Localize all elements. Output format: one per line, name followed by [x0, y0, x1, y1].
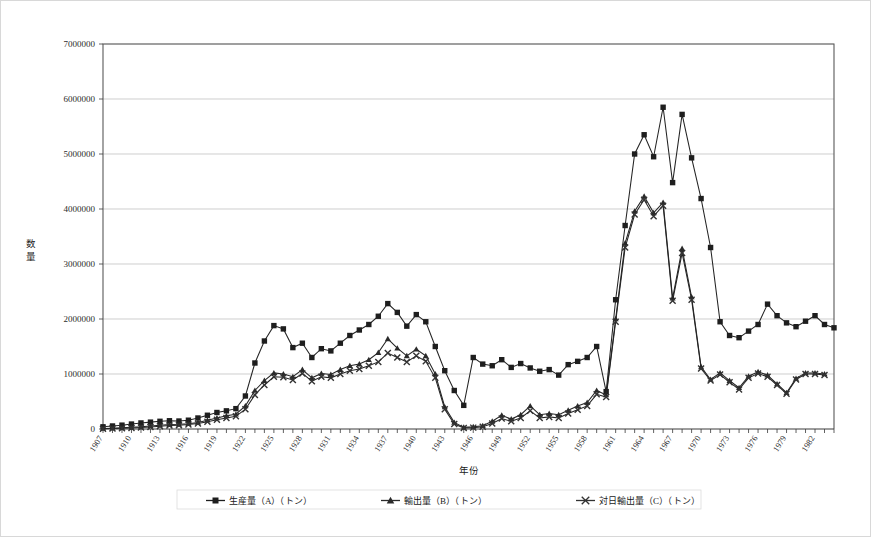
marker-square — [632, 151, 637, 156]
marker-square — [300, 341, 305, 346]
x-tick-label: 1916 — [173, 434, 190, 454]
x-tick-label: 1982 — [799, 434, 816, 454]
marker-square — [224, 408, 229, 413]
marker-square — [698, 196, 703, 201]
x-tick-label: 1937 — [372, 434, 389, 454]
x-tick-label: 1910 — [116, 434, 133, 454]
x-tick-label: 1949 — [486, 434, 503, 454]
x-tick-label: 1973 — [714, 434, 731, 454]
marker-square — [537, 369, 542, 374]
legend-label-2[interactable]: 輸出量（B）（トン） — [404, 495, 487, 506]
marker-square — [584, 355, 589, 360]
x-tick-label: 1925 — [258, 434, 275, 454]
x-tick-label: 1979 — [771, 434, 788, 454]
marker-square — [281, 326, 286, 331]
y-tick-label: 5000000 — [64, 149, 96, 159]
marker-square — [546, 367, 551, 372]
marker-square — [575, 359, 580, 364]
marker-square — [784, 320, 789, 325]
y-tick-label: 4000000 — [64, 204, 96, 214]
marker-square — [651, 154, 656, 159]
marker-square — [357, 327, 362, 332]
marker-square — [670, 180, 675, 185]
marker-square — [717, 319, 722, 324]
marker-square — [423, 319, 428, 324]
marker-square — [641, 132, 646, 137]
x-tick-label: 1955 — [543, 434, 560, 454]
marker-square — [271, 323, 276, 328]
legend: 生産量（A）（トン）輸出量（B）（トン）対日輸出量（C）（トン） — [177, 490, 701, 509]
marker-square — [803, 319, 808, 324]
x-tick-label: 1913 — [144, 434, 161, 454]
marker-square — [793, 324, 798, 329]
marker-square — [831, 325, 836, 330]
marker-square — [518, 361, 523, 366]
marker-square — [727, 333, 732, 338]
marker-square — [328, 348, 333, 353]
x-axis-title: 年份 — [459, 465, 479, 476]
marker-square — [765, 301, 770, 306]
marker-square — [755, 322, 760, 327]
marker-square — [347, 333, 352, 338]
x-tick-label: 1976 — [742, 434, 759, 454]
x-tick-label: 1958 — [571, 434, 588, 454]
y-tick-label: 6000000 — [64, 94, 96, 104]
marker-square — [319, 346, 324, 351]
marker-square — [290, 345, 295, 350]
marker-square — [461, 403, 466, 408]
marker-square — [689, 155, 694, 160]
x-tick-label: 1961 — [600, 434, 617, 454]
marker-square — [452, 388, 457, 393]
marker-square — [404, 323, 409, 328]
marker-square — [822, 322, 827, 327]
y-axis-title-char-1: 数 — [26, 238, 36, 249]
marker-square — [746, 328, 751, 333]
x-tick-label: 1919 — [201, 434, 218, 454]
marker-square — [252, 360, 257, 365]
marker-square — [414, 312, 419, 317]
y-tick-label: 0 — [91, 424, 96, 434]
marker-square — [528, 365, 533, 370]
chart-canvas: 0100000020000003000000400000050000006000… — [1, 1, 871, 537]
marker-square — [213, 498, 219, 504]
marker-square — [660, 105, 665, 110]
marker-square — [262, 338, 267, 343]
marker-square — [622, 223, 627, 228]
legend-label-3[interactable]: 対日輸出量（C）（トン） — [599, 495, 700, 506]
marker-square — [395, 310, 400, 315]
marker-square — [480, 361, 485, 366]
marker-square — [774, 313, 779, 318]
marker-square — [309, 355, 314, 360]
marker-square — [214, 410, 219, 415]
marker-square — [565, 362, 570, 367]
marker-square — [594, 344, 599, 349]
marker-square — [243, 393, 248, 398]
marker-square — [471, 355, 476, 360]
marker-square — [679, 112, 684, 117]
legend-label-1[interactable]: 生産量（A）（トン） — [229, 495, 313, 506]
marker-square — [433, 344, 438, 349]
chart-page: 0100000020000003000000400000050000006000… — [0, 0, 871, 537]
y-tick-label: 1000000 — [64, 369, 96, 379]
y-tick-label: 3000000 — [64, 259, 96, 269]
marker-square — [499, 357, 504, 362]
marker-square — [490, 363, 495, 368]
marker-square — [442, 368, 447, 373]
marker-square — [556, 372, 561, 377]
marker-square — [338, 341, 343, 346]
marker-square — [708, 245, 713, 250]
plot-background — [103, 44, 834, 429]
marker-square — [376, 314, 381, 319]
marker-square — [385, 301, 390, 306]
y-tick-label: 7000000 — [64, 39, 96, 49]
x-tick-label: 1928 — [287, 434, 304, 454]
x-tick-label: 1970 — [685, 434, 702, 454]
marker-square — [233, 406, 238, 411]
x-tick-label: 1952 — [514, 434, 531, 454]
x-tick-label: 1907 — [87, 434, 104, 454]
x-tick-label: 1934 — [344, 433, 362, 453]
y-tick-label: 2000000 — [64, 314, 96, 324]
x-tick-label: 1964 — [628, 433, 646, 453]
x-tick-label: 1940 — [400, 434, 417, 454]
x-tick-label: 1943 — [429, 434, 446, 454]
